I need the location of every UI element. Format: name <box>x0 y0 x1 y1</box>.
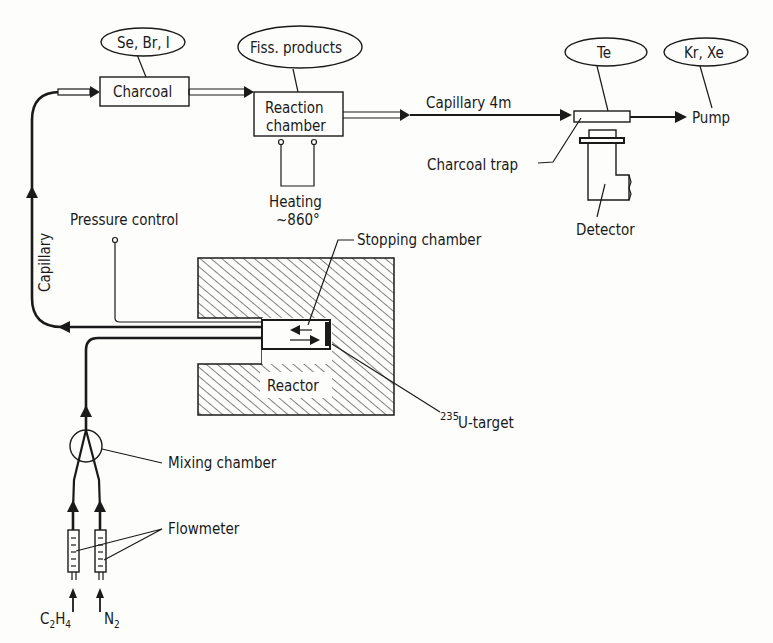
pump-label: Pump <box>692 109 730 127</box>
reaction-label-2: chamber <box>266 117 326 135</box>
u-target-label: U-target <box>458 414 514 432</box>
u-target-marker <box>325 322 330 346</box>
u-target-superscript: 235 <box>440 411 459 422</box>
inlet-n2 <box>96 588 104 612</box>
tube-to-reaction <box>189 86 254 98</box>
c2h4-label: C2H4 <box>40 610 71 630</box>
capillary-4m-label: Capillary 4m <box>426 94 511 112</box>
flowmeter-label: Flowmeter <box>168 520 240 538</box>
arrow-up-icon <box>67 500 79 512</box>
charcoal-trap-label: Charcoal trap <box>427 156 518 174</box>
arrow-left-icon <box>58 321 70 333</box>
tube-to-charcoal <box>58 86 100 98</box>
stopping-chamber <box>262 320 330 349</box>
flowmeter-c2h4 <box>68 512 79 580</box>
heating-element <box>279 140 317 187</box>
inlet-c2h4 <box>69 588 77 612</box>
reactor-label: Reactor <box>267 377 319 395</box>
heating-temp-label: ~860° <box>276 211 320 229</box>
mixing-lines <box>67 420 106 512</box>
fiss-products-label: Fiss. products <box>250 39 342 57</box>
arrow-up-icon <box>80 405 92 417</box>
capillary-label: Capillary <box>36 233 54 292</box>
charcoal-label: Charcoal <box>113 83 172 101</box>
reaction-chamber-box: Reaction chamber <box>254 92 343 136</box>
charcoal-trap-tube <box>574 111 630 122</box>
detector-body <box>580 130 631 200</box>
diagram-canvas: Reactor Capillary Pressure control Stopp… <box>0 0 773 643</box>
kr-xe-label: Kr, Xe <box>684 44 724 62</box>
pressure-control-label: Pressure control <box>70 211 179 229</box>
reaction-label-1: Reaction <box>265 99 324 117</box>
mixing-chamber-label: Mixing chamber <box>168 454 277 472</box>
detector-label: Detector <box>576 221 635 239</box>
arrow-right-icon <box>675 111 687 123</box>
charcoal-box: Charcoal <box>100 77 189 106</box>
heating-label: Heating <box>269 193 322 211</box>
mixing-chamber-circle <box>70 430 102 462</box>
n2-label: N2 <box>104 610 120 630</box>
arrow-up-icon <box>94 500 106 512</box>
se-br-i-label: Se, Br, I <box>117 34 170 52</box>
arrow-up-icon <box>26 186 38 198</box>
stopping-chamber-label: Stopping chamber <box>357 231 482 249</box>
te-label: Te <box>596 44 611 62</box>
